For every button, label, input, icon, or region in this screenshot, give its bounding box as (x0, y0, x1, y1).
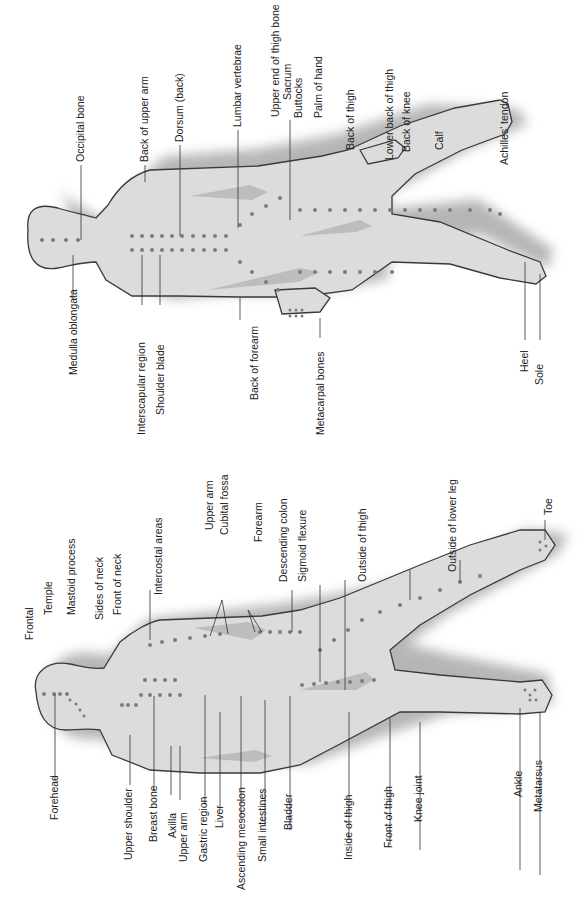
label-upper-end-thigh-bone: Upper end of thigh bone (269, 4, 281, 117)
label-shoulder-blade: Shoulder blade (154, 344, 166, 415)
label-inside-of-thigh: Inside of thigh (342, 794, 354, 860)
label-occipital-bone: Occipital bone (74, 95, 86, 162)
label-achilles-tendon: Achilles' tendon (498, 92, 510, 165)
label-sigmoid-flexure: Sigmoid flexure (296, 509, 308, 582)
label-sides-of-neck: Sides of neck (93, 556, 105, 620)
label-sole: Sole (533, 364, 545, 385)
anatomy-diagram: Occipital bone Back of upper arm Dorsum … (0, 0, 586, 907)
label-interscapular-region: Interscapular region (135, 342, 147, 435)
label-lumbar-vertebrae: Lumbar vertebrae (231, 44, 243, 127)
label-front-of-thigh: Front of thigh (382, 786, 394, 848)
back-view-figure (28, 100, 553, 340)
label-upper-arm-right: Upper arm (203, 480, 215, 530)
label-ascending-mesocolon: Ascending mesocolon (235, 787, 247, 890)
label-gastric-region: Gastric region (197, 796, 209, 862)
label-buttocks: Buttocks (292, 78, 304, 118)
label-palm-of-hand: Palm of hand (312, 56, 324, 118)
label-intercostal-areas: Intercostal areas (152, 517, 164, 595)
label-heel: Heel (518, 350, 530, 372)
label-upper-arm-left: Upper arm (177, 812, 189, 862)
label-lower-back-of-thigh: Lower back of thigh (383, 69, 395, 160)
label-back-of-forearm: Back of forearm (248, 326, 260, 400)
label-outside-of-lower-leg: Outside of lower leg (446, 479, 458, 572)
label-temple: Temple (42, 581, 54, 615)
label-outside-of-thigh: Outside of thigh (356, 508, 368, 582)
label-bladder: Bladder (282, 793, 294, 830)
label-back-of-thigh: Back of thigh (344, 89, 356, 150)
label-forehead: Forehead (48, 775, 60, 820)
label-calf: Calf (433, 131, 445, 150)
label-back-of-upper-arm: Back of upper arm (138, 76, 150, 162)
label-ankle: Ankle (512, 771, 524, 797)
label-back-of-knee: Back of knee (400, 91, 412, 152)
label-toe: Toe (542, 498, 554, 515)
back-view-body (28, 100, 546, 297)
label-small-intestines: Small intestines (256, 788, 268, 862)
label-liver: Liver (213, 805, 225, 828)
label-descending-colon: Descending colon (277, 498, 289, 582)
label-upper-shoulder: Upper shoulder (122, 788, 134, 860)
label-cubital-fossa: Cubital fossa (218, 474, 230, 535)
label-metacarpal-bones: Metacarpal bones (314, 352, 326, 435)
label-frontal: Frontal (23, 607, 35, 640)
label-knee-joint: Knee joint (412, 775, 424, 822)
label-dorsum: Dorsum (back) (173, 73, 185, 142)
label-breast-bone: Breast bone (147, 785, 159, 842)
label-mastoid-process: Mastoid process (65, 539, 77, 615)
label-medulla-oblongata: Medulla oblongata (67, 289, 79, 375)
label-forearm: Forearm (252, 502, 264, 542)
label-metatarsus: Metatarsus (532, 760, 544, 812)
label-front-of-neck: Front of neck (111, 553, 123, 615)
